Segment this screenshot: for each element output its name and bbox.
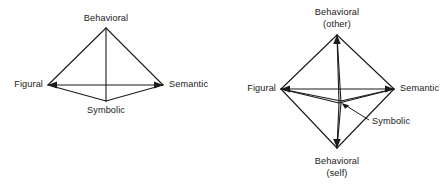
behavioral-other-vertex-marker: [333, 35, 341, 44]
octa-label-behavioral-other-line1: Behavioral: [315, 7, 359, 19]
symbolic-callout-arrowhead: [342, 103, 350, 109]
edge-semantic-other: [337, 35, 394, 89]
octa-label-behavioral-self-line2: (self): [315, 168, 359, 180]
edge-other-figural: [281, 35, 337, 89]
octa-label-behavioral-self: Behavioral (self): [315, 156, 359, 179]
octahedron-model: Behavioral (other) Figural Semantic Beha…: [0, 0, 448, 189]
octa-label-behavioral-self-line1: Behavioral: [315, 156, 359, 168]
edge-figural-self: [281, 89, 337, 148]
octahedron-geometry: [0, 0, 448, 189]
semantic-vertex-marker: [385, 86, 394, 93]
octa-label-figural: Figural: [247, 83, 276, 94]
figure-canvas: Behavioral Figural Semantic Symbolic: [0, 0, 448, 189]
symbolic-callout-leader: [345, 105, 369, 120]
octa-label-semantic: Semantic: [400, 83, 439, 94]
edge-symbolic-ring-back: [281, 89, 394, 101]
behavioral-self-vertex-marker: [333, 139, 341, 148]
figural-vertex-marker: [281, 86, 290, 93]
octa-label-symbolic: Symbolic: [372, 116, 410, 127]
edge-symbolic-ring-front: [281, 89, 394, 103]
octa-label-behavioral-other-line2: (other): [315, 19, 359, 31]
octa-label-behavioral-other: Behavioral (other): [315, 7, 359, 30]
